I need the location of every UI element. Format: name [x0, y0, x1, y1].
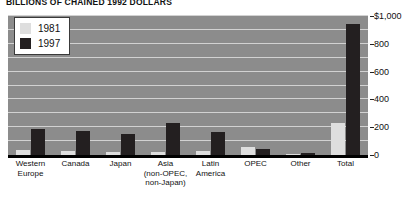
- y-tick-label: 400: [374, 94, 389, 104]
- x-axis-labels: WesternEuropeCanadaJapanAsia(non-OPEC,no…: [8, 159, 368, 201]
- y-axis: $1,0008006004002000: [370, 0, 409, 165]
- chart-title: BILLIONS OF CHAINED 1992 DOLLARS: [6, 0, 172, 7]
- legend-label-1981: 1981: [38, 23, 60, 34]
- bar-group: [241, 16, 270, 155]
- x-tick-label: WesternEurope: [8, 159, 53, 178]
- bar-1981: [331, 123, 345, 155]
- bar-1997: [76, 131, 90, 155]
- x-tick-label: OPEC: [233, 159, 278, 169]
- x-tick-label: LatinAmerica: [188, 159, 233, 178]
- bar-1997: [121, 134, 135, 155]
- x-tick-label: Asia(non-OPEC,non-Japan): [143, 159, 188, 188]
- bar-1997: [211, 132, 225, 155]
- y-tick-label: 600: [374, 67, 389, 77]
- bar-group: [331, 16, 360, 155]
- bar-group: [286, 16, 315, 155]
- bar-1997: [346, 24, 360, 155]
- y-tick-label: $1,000: [374, 11, 402, 21]
- legend-swatch-1981: [20, 23, 31, 34]
- x-tick-label: Canada: [53, 159, 98, 169]
- y-tick-label: 800: [374, 39, 389, 49]
- bar-chart: BILLIONS OF CHAINED 1992 DOLLARS $1,0008…: [0, 0, 409, 201]
- x-tick-label: Japan: [98, 159, 143, 169]
- x-axis-baseline: [8, 155, 368, 158]
- legend-item-1997: 1997: [20, 37, 60, 50]
- chart-legend: 1981 1997: [14, 17, 70, 55]
- legend-item-1981: 1981: [20, 22, 60, 35]
- legend-swatch-1997: [20, 38, 31, 49]
- bar-group: [106, 16, 135, 155]
- x-tick-label: Other: [278, 159, 323, 169]
- y-tick-label: 200: [374, 122, 389, 132]
- bar-group: [151, 16, 180, 155]
- legend-label-1997: 1997: [38, 38, 60, 49]
- x-tick-label: Total: [323, 159, 368, 169]
- y-tick-label: 0: [374, 150, 379, 160]
- bar-1997: [166, 123, 180, 155]
- bar-1981: [241, 147, 255, 155]
- bar-1997: [31, 129, 45, 155]
- bar-group: [196, 16, 225, 155]
